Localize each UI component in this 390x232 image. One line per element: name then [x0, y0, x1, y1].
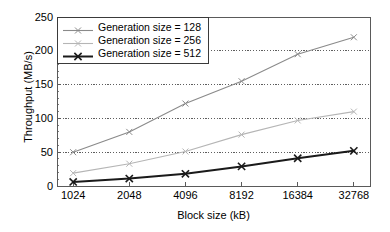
legend-label: Generation size = 128	[98, 22, 201, 33]
legend-item: Generation size = 128	[63, 21, 201, 34]
legend-label: Generation size = 256	[98, 35, 201, 46]
x-axis-title: Block size (kB)	[57, 209, 370, 221]
legend-item: Generation size = 256	[63, 34, 201, 47]
legend-line-marker-icon	[63, 48, 93, 59]
legend-line-marker-icon	[63, 22, 93, 33]
chart-legend: Generation size = 128Generation size = 2…	[57, 17, 209, 64]
legend-line-marker-icon	[63, 35, 93, 46]
legend-item: Generation size = 512	[63, 47, 201, 60]
legend-label: Generation size = 512	[98, 48, 201, 59]
chart-container: Throughput (MB/s) 050100150200250 102420…	[0, 0, 390, 232]
